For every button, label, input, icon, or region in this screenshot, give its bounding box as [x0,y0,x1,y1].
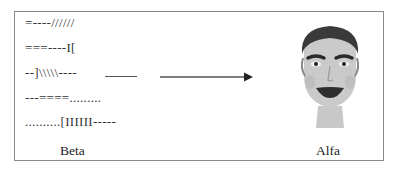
right-arrow-icon [160,71,254,83]
blank-underline [105,76,137,77]
code-line-5: ..........[IIIIII----- [25,115,116,129]
code-line-4: ---====......... [25,91,101,105]
code-line-3: --]\\\\\---- [25,66,77,80]
cartoon-face-icon [298,24,362,134]
caption-beta: Beta [60,143,85,159]
caption-alfa: Alfa [316,143,340,159]
code-line-2: ===----I[ [25,41,76,55]
code-line-1: =----////// [25,16,75,30]
